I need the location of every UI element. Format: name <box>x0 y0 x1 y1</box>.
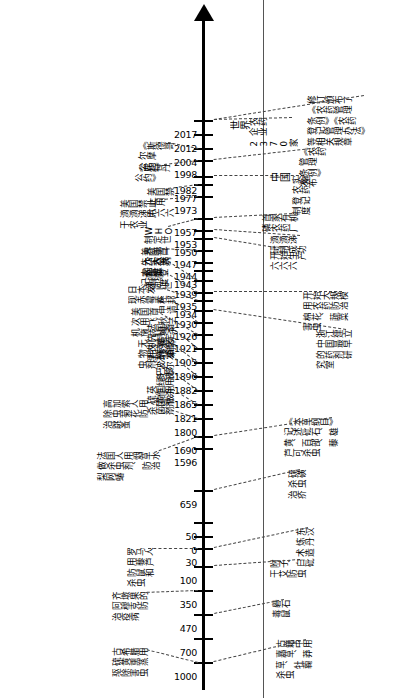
axis-tick-label: 700 <box>180 647 197 658</box>
axis-tick-label: 1596 <box>174 457 197 468</box>
event-note: 修订颁布了 《农药管理 条例》《农药 登记管理办法》 等相关规章 <box>307 96 370 148</box>
axis-tick-label: 2017 <box>174 129 197 140</box>
axis-tick-label: 1998 <box>174 169 197 180</box>
event-note: 《本草纲目》 记述砒石、雄 黄、百部、藜 芦可杀虫 <box>284 418 338 460</box>
axis-tick-label: 470 <box>180 623 197 634</box>
event-note: 浙江建立 中国最早 的药剂研 究室 <box>316 330 352 372</box>
axis-tick-label: 1957 <box>174 227 197 238</box>
china-world-divider <box>263 0 264 698</box>
axis-tick <box>194 120 213 122</box>
event-leader-line <box>214 291 342 292</box>
axis-tick-label: 659 <box>180 499 197 510</box>
timeline-stage: 1000700470350100300506591596169018001821… <box>0 0 410 698</box>
event-note: 齐墩果的 阿穆克防 治疫病 <box>112 592 148 623</box>
axis-tick <box>194 522 213 524</box>
event-note: 古希腊用 硫黄熏蒸 驱除害虫 <box>112 648 148 679</box>
timeline-diagram: 1000700470350100300506591596169018001821… <box>0 0 410 698</box>
region-label-world: 世界 <box>230 120 250 131</box>
event-note: 硫磺 杀虫 治疥 <box>288 470 306 501</box>
axis-tick-label: 1000 <box>174 671 197 682</box>
axis-tick-label: 50 <box>186 531 198 542</box>
event-leader-line <box>148 548 198 549</box>
event-note: 罗马人 用藜芦 防鼠和 杀虫 <box>127 548 154 590</box>
event-note: 《农药 管理 条例》 发布 <box>299 148 326 190</box>
event-note: 滴滴涕 研制成功 <box>270 236 306 257</box>
timeline-axis-arrow <box>194 4 214 21</box>
event-note: 《斯德哥 尔摩 公约》 <box>138 142 174 173</box>
axis-tick-label: 350 <box>180 599 197 610</box>
event-note: 东汉 炼丹 术造 白砒 <box>296 528 314 570</box>
event-note: 开始大规模 用农药防治 棉花、蔬菜 害虫 <box>303 292 348 334</box>
event-note: 美国首 次用飞 机施药 <box>131 308 158 339</box>
axis-tick <box>194 638 213 640</box>
axis-tick-label: 30 <box>186 557 198 568</box>
event-leader-line <box>142 590 198 593</box>
axis-tick-label: 1973 <box>174 205 197 216</box>
axis-tick <box>194 614 213 616</box>
event-leader-line <box>214 175 304 176</box>
event-note: 农药 企业 2370家 <box>249 118 298 149</box>
event-leader-line <box>214 527 308 548</box>
event-note: WHO 制定世 界第一 个农药 标准 <box>144 226 174 278</box>
axis-tick-label: 0 <box>191 545 197 556</box>
axis-tick <box>194 490 213 492</box>
event-note: 古籍中用 嘉草、莽 草、牡蘜 杀虫 <box>276 640 312 682</box>
event-note: 美国禁 止用 六六六 <box>147 188 174 219</box>
event-note: 法国人用烟草水 做杀虫剂、防治 梨网蝽 <box>97 452 160 483</box>
event-note: 高加索人用 除虫菊花防 治跳蚤 <box>103 400 148 431</box>
event-note: 礜石 毒鼠 <box>272 600 290 621</box>
axis-tick-label: 1690 <box>174 445 197 456</box>
region-label-china: 中国 <box>270 172 290 183</box>
event-leader-line <box>168 218 198 227</box>
axis-tick-label: 100 <box>180 575 197 586</box>
